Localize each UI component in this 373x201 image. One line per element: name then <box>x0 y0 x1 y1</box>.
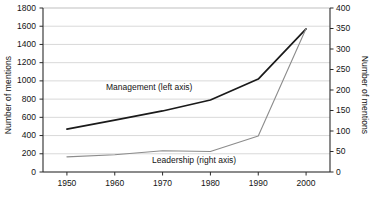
x-tick-label: 2000 <box>289 178 323 188</box>
y-tick-label-right: 150 <box>336 105 362 115</box>
y-tick-label-right: 400 <box>336 3 362 13</box>
data-lines <box>67 29 306 157</box>
y-tick-label-left: 400 <box>10 130 36 140</box>
y-tick-label-right: 50 <box>336 146 362 156</box>
y-tick-label-left: 600 <box>10 112 36 122</box>
y-tick-label-right: 250 <box>336 64 362 74</box>
y-tick-label-left: 0 <box>10 167 36 177</box>
x-tick-label: 1950 <box>50 178 84 188</box>
tick-marks <box>40 8 334 176</box>
y-tick-label-left: 1600 <box>10 21 36 31</box>
y-tick-label-right: 0 <box>336 167 362 177</box>
y-tick-label-left: 200 <box>10 148 36 158</box>
x-tick-label: 1970 <box>146 178 180 188</box>
y-tick-label-right: 200 <box>336 85 362 95</box>
x-tick-label: 1990 <box>241 178 275 188</box>
plot-area <box>0 0 373 201</box>
y-tick-label-left: 800 <box>10 94 36 104</box>
x-tick-label: 1980 <box>193 178 227 188</box>
y-tick-label-right: 100 <box>336 126 362 136</box>
x-tick-label: 1960 <box>98 178 132 188</box>
y-tick-label-left: 1800 <box>10 3 36 13</box>
chart-container: Number of mentions Number of mentions Ma… <box>0 0 373 201</box>
y-tick-label-right: 300 <box>336 44 362 54</box>
gridlines <box>43 8 330 172</box>
y-tick-label-left: 1000 <box>10 75 36 85</box>
y-tick-label-right: 350 <box>336 23 362 33</box>
axis-lines <box>43 8 330 172</box>
y-tick-label-left: 1200 <box>10 57 36 67</box>
y-tick-label-left: 1400 <box>10 39 36 49</box>
